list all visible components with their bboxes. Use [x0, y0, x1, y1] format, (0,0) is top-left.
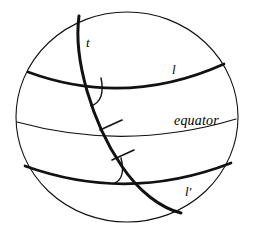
label-line-l: l [172, 63, 176, 76]
label-line-l-prime: l' [185, 185, 191, 198]
label-equator: equator [174, 114, 219, 128]
sphere-diagram-figure: t l equator l' [0, 0, 256, 240]
label-transversal-t: t [86, 36, 90, 49]
